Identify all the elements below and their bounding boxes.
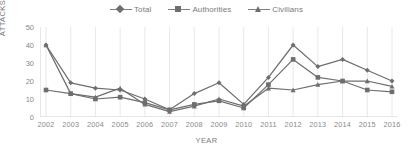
data-point [316, 75, 321, 80]
gridlines [46, 27, 392, 117]
legend-item-civilians[interactable]: Civilians [248, 4, 303, 14]
data-point [291, 57, 296, 62]
data-point [365, 88, 370, 93]
x-tick-label: 2003 [62, 120, 79, 129]
triangle-marker-icon [248, 4, 270, 14]
x-tick-label: 2004 [87, 120, 104, 129]
x-tick-label: 2008 [186, 120, 203, 129]
x-tick-label: 2016 [383, 120, 400, 129]
data-point [340, 57, 345, 62]
y-tick-label: 20 [8, 77, 34, 86]
data-point [390, 90, 395, 95]
x-tick-label: 2006 [136, 120, 153, 129]
x-tick-label: 2007 [161, 120, 178, 129]
legend-item-authorities[interactable]: Authorities [168, 4, 231, 14]
square-marker-icon [168, 4, 190, 14]
legend-label-total: Total [134, 5, 151, 14]
x-tick-label: 2014 [334, 120, 351, 129]
y-tick-label: 10 [8, 95, 34, 104]
x-tick-label: 2012 [285, 120, 302, 129]
legend-label-authorities: Authorities [192, 5, 231, 14]
data-point [118, 95, 123, 100]
line-chart: Total Authorities Civilians ATTACKS 5040… [0, 0, 413, 153]
data-point [44, 88, 49, 93]
data-point [93, 86, 98, 91]
data-point [390, 79, 395, 84]
legend-item-total[interactable]: Total [110, 4, 151, 14]
diamond-marker-icon [110, 4, 132, 14]
x-axis-title: YEAR [0, 136, 413, 145]
x-tick-label: 2011 [260, 120, 277, 129]
y-tick-label: 30 [8, 59, 34, 68]
x-tick-label: 2015 [359, 120, 376, 129]
x-axis-ticks: 2002200320042005200620072008200920102011… [40, 120, 398, 132]
y-tick-label: 40 [8, 41, 34, 50]
y-tick-label: 0 [8, 113, 34, 122]
legend-label-civilians: Civilians [272, 5, 303, 14]
y-tick-label: 50 [8, 23, 34, 32]
y-axis-ticks: 50403020100 [8, 27, 34, 117]
x-tick-label: 2002 [37, 120, 54, 129]
x-tick-label: 2013 [309, 120, 326, 129]
data-point [365, 68, 370, 73]
y-axis-title: ATTACKS [0, 0, 7, 48]
chart-legend: Total Authorities Civilians [0, 2, 413, 16]
plot-area [40, 27, 398, 117]
x-tick-label: 2005 [112, 120, 129, 129]
x-tick-label: 2009 [210, 120, 227, 129]
chart-canvas [40, 27, 398, 117]
x-tick-label: 2010 [235, 120, 252, 129]
data-point [118, 86, 123, 91]
